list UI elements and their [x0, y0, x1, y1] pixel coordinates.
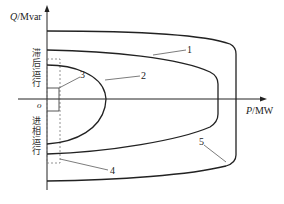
curve-label-4: 4: [110, 166, 115, 176]
curve-label-5: 5: [199, 137, 204, 147]
origin-label: o: [37, 100, 42, 110]
figure-caption: [60, 194, 230, 200]
leader-3: [59, 77, 80, 88]
x-axis-unit: /MW: [252, 105, 273, 116]
lagging-operation-label: 滞后运行: [30, 48, 43, 88]
leader-2: [105, 76, 140, 80]
curve-label-3: 3: [80, 70, 85, 80]
leader-1: [153, 50, 186, 55]
capability-diagram: [0, 0, 284, 204]
x-axis-arrow-icon: [260, 97, 267, 102]
curve-label-2: 2: [141, 71, 146, 81]
y-axis-unit: /Mvar: [17, 11, 41, 22]
leading-operation-label: 进相运行: [30, 116, 43, 156]
curve-5: [47, 31, 236, 181]
y-axis-arrow-icon: [45, 5, 50, 12]
x-axis-label: P/MW: [246, 106, 273, 116]
y-axis-label: Q/Mvar: [10, 12, 42, 22]
curve-label-1: 1: [187, 45, 192, 55]
leader-5: [204, 145, 226, 162]
leader-4: [60, 159, 108, 170]
curve-2: [47, 65, 106, 144]
